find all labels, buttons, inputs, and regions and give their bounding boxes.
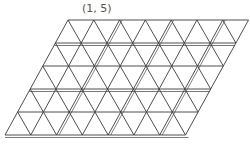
lattice-line xyxy=(148,43,161,66)
lattice-line xyxy=(108,112,121,135)
lattice-line xyxy=(30,89,43,112)
lattice-line xyxy=(69,43,82,66)
lattice-line xyxy=(43,89,56,112)
lattice-line xyxy=(69,66,82,89)
lattice-line xyxy=(56,66,69,89)
lattice-line xyxy=(134,112,147,135)
lattice-line xyxy=(172,66,185,89)
lattice-line xyxy=(161,20,174,43)
lattice-line xyxy=(121,112,134,135)
lattice-line xyxy=(172,112,185,135)
lattice-line xyxy=(107,20,120,43)
lattice-line xyxy=(95,89,108,112)
lattice-line xyxy=(69,112,82,135)
lattice-line xyxy=(81,43,94,66)
lattice-line xyxy=(18,89,31,112)
lattice-line xyxy=(172,43,185,66)
lattice-line xyxy=(81,20,94,43)
lattice-line xyxy=(175,89,188,112)
lattice-line xyxy=(123,89,136,112)
lattice-line xyxy=(94,43,107,66)
lattice-line xyxy=(236,20,249,43)
lattice-line xyxy=(184,43,197,66)
lattice-line xyxy=(185,89,198,112)
lattice-line xyxy=(172,89,185,112)
lattice-line xyxy=(187,66,200,89)
lattice-line xyxy=(213,20,226,43)
lattice-line xyxy=(57,112,70,135)
lattice-line xyxy=(160,112,173,135)
lattice-line xyxy=(136,66,149,89)
lattice-line xyxy=(107,43,120,66)
lattice-line xyxy=(159,66,172,89)
lattice-line xyxy=(147,112,160,135)
lattice-line xyxy=(145,20,158,43)
lattice-line xyxy=(120,43,133,66)
lattice-line xyxy=(94,66,107,89)
lattice-line xyxy=(198,43,211,66)
lattice-line xyxy=(146,66,159,89)
lattice-line xyxy=(185,66,198,89)
lattice-line xyxy=(55,20,68,43)
lattice-line xyxy=(210,43,223,66)
lattice-line xyxy=(5,112,18,135)
lattice-line xyxy=(43,112,56,135)
lattice-line xyxy=(69,89,82,112)
lattice-line xyxy=(43,66,56,89)
lattice-line xyxy=(94,20,107,43)
lattice-line xyxy=(171,20,184,43)
lattice-line xyxy=(109,20,122,43)
lattice-line xyxy=(121,89,134,112)
lattice-line xyxy=(111,112,124,135)
lattice-line xyxy=(133,20,146,43)
lattice-line xyxy=(186,112,199,135)
lattice-line xyxy=(82,66,95,89)
lattice-line xyxy=(133,89,146,112)
lattice-line xyxy=(72,89,85,112)
lattice-line xyxy=(59,112,72,135)
lattice-line xyxy=(120,66,133,89)
lattice-line xyxy=(198,66,211,89)
lattice-line xyxy=(146,43,159,66)
lattice-line xyxy=(197,20,210,43)
lattice-line xyxy=(159,43,172,66)
lattice-line xyxy=(31,112,44,135)
lattice-line xyxy=(200,43,213,66)
lattice-line xyxy=(133,43,146,66)
lattice-line xyxy=(223,20,236,43)
lattice-line xyxy=(43,43,56,66)
lattice-line xyxy=(30,66,43,89)
lattice-line xyxy=(147,89,160,112)
lattice-line xyxy=(56,89,69,112)
lattice-line xyxy=(82,112,95,135)
lattice-line xyxy=(108,89,121,112)
lattice-line xyxy=(211,66,224,89)
lattice-line xyxy=(159,20,172,43)
lattice-line xyxy=(68,20,81,43)
lattice-line xyxy=(223,43,236,66)
lattice-line xyxy=(210,20,223,43)
lattice-line xyxy=(18,112,31,135)
lattice-line xyxy=(84,66,97,89)
lattice-line xyxy=(82,89,95,112)
lattice-line xyxy=(108,66,121,89)
lattice-line xyxy=(95,112,108,135)
triangular-lattice-diagram xyxy=(0,0,250,144)
lattice-line xyxy=(120,20,133,43)
lattice-line xyxy=(162,112,175,135)
lattice-line xyxy=(97,43,110,66)
lattice-line xyxy=(198,89,211,112)
lattice-line xyxy=(55,43,68,66)
lattice-line xyxy=(159,89,172,112)
lattice-line xyxy=(184,20,197,43)
lattice-line xyxy=(133,66,146,89)
